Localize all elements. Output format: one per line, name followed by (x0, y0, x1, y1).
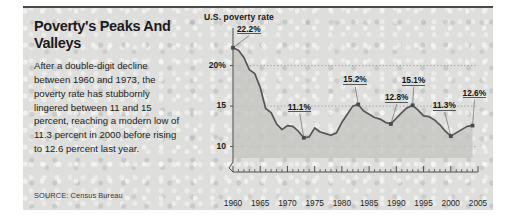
x-axis-label: 1985 (354, 198, 384, 208)
data-point-callout: 15.1% (402, 76, 426, 86)
plot-svg (196, 22, 496, 174)
data-point-marker (411, 103, 415, 107)
infographic-page: Poverty's Peaks And Valleys After a doub… (0, 0, 523, 220)
data-point-callout: 15.2% (343, 75, 367, 85)
data-point-marker (302, 136, 306, 140)
text-column: Poverty's Peaks And Valleys After a doub… (34, 18, 182, 156)
callout-leader-line (233, 36, 249, 48)
chart-title: U.S. poverty rate (204, 12, 274, 22)
data-point-marker (356, 103, 360, 107)
callout-leader-line (413, 87, 414, 105)
data-point-marker (231, 46, 235, 50)
top-rule-divider (23, 6, 493, 8)
x-axis-label: 1965 (245, 198, 275, 208)
x-axis-label: 1970 (272, 198, 302, 208)
data-point-callout: 22.2% (237, 25, 261, 35)
data-point-callout: 12.8% (385, 93, 409, 103)
callout-leader-line (355, 86, 358, 104)
x-axis-label: 2000 (436, 198, 466, 208)
callout-leader-line (473, 100, 475, 126)
source-credit: SOURCE: Census Bureau (34, 191, 123, 200)
y-axis-label: 20% (200, 60, 226, 70)
plot-area: 20%1510196019651970197519801985199019952… (196, 22, 496, 174)
poverty-rate-chart: U.S. poverty rate 20%1510196019651970197… (196, 12, 496, 202)
page-title: Poverty's Peaks And Valleys (34, 18, 182, 52)
data-point-marker (449, 134, 453, 138)
x-axis-label: 1990 (381, 198, 411, 208)
y-axis-label: 15 (200, 100, 226, 110)
data-point-marker (389, 122, 393, 126)
axis-break-jog (229, 162, 233, 172)
y-axis-label: 10 (200, 141, 226, 151)
data-point-callout: 11.3% (433, 101, 456, 111)
x-axis-label: 1980 (327, 198, 357, 208)
deck-paragraph: After a double-digit decline between 196… (34, 59, 182, 156)
data-point-callout: 11.1% (288, 103, 311, 113)
x-axis-label: 2005 (463, 198, 493, 208)
x-axis-label: 1960 (218, 198, 248, 208)
x-axis-label: 1995 (409, 198, 439, 208)
data-point-marker (471, 124, 475, 128)
data-point-callout: 12.6% (463, 89, 487, 99)
x-axis-label: 1975 (300, 198, 330, 208)
